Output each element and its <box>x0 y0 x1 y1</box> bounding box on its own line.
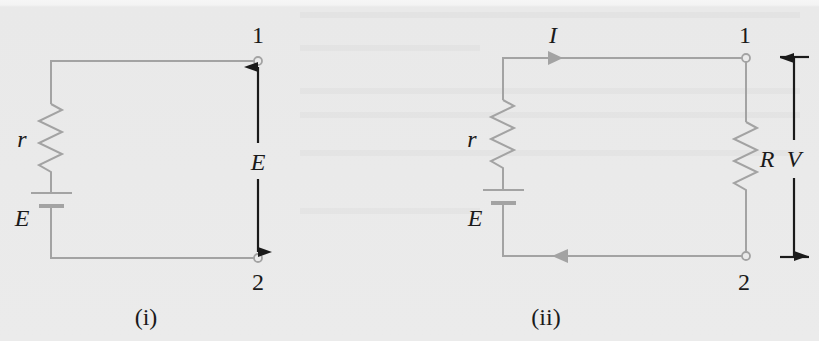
panel-i-resistor-r <box>39 104 62 193</box>
panel-ii-current-arrow-top-icon <box>548 51 563 65</box>
panel-ii-voltage-label: V <box>787 146 804 172</box>
panel-ii-load-R-label: R <box>759 146 775 172</box>
panel-ii-terminal-2 <box>742 252 750 260</box>
panel-i-terminal-2 <box>254 254 262 262</box>
panel-ii-current-arrow-bottom-icon <box>552 249 568 263</box>
panel-ii-current-label: I <box>548 22 558 48</box>
panel-ii-terminal-2-label: 2 <box>738 269 750 295</box>
panel-ii-r-label: r <box>467 126 477 152</box>
panel-i-wire <box>51 61 254 104</box>
panel-ii-wire-bottom <box>503 204 742 256</box>
panel-i-r-label: r <box>17 126 27 152</box>
panel-ii-terminal-1-label: 1 <box>739 22 751 48</box>
panel-i-emf-label: E <box>14 205 30 231</box>
panel-ii-resistor-R <box>734 122 757 252</box>
panel-ii-caption: (ii) <box>531 304 560 330</box>
panel-i-open-circuit: 1 2 r E E (i) <box>14 22 266 330</box>
panel-i-measured-emf-label: E <box>250 149 266 175</box>
panel-i-terminal-2-label: 2 <box>252 269 264 295</box>
circuit-diagram: 1 2 r E E (i) I 1 2 r E R V (ii) <box>0 0 819 341</box>
panel-ii-terminal-1 <box>742 54 750 62</box>
panel-ii-emf-label: E <box>467 205 483 231</box>
panel-i-terminal-1 <box>254 57 262 65</box>
panel-i-terminal-1-label: 1 <box>252 22 264 48</box>
panel-i-caption: (i) <box>135 304 158 330</box>
panel-i-wire-bottom <box>51 207 254 258</box>
panel-ii-closed-circuit: I 1 2 r E R V (ii) <box>467 22 809 330</box>
